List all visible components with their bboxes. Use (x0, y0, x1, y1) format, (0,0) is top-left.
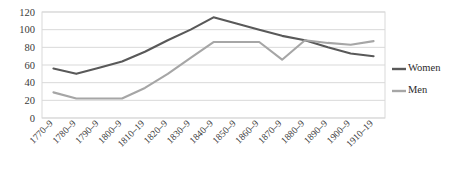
chart-canvas: 020406080100120 1770–91780–91790–91800–9… (0, 0, 455, 170)
x-tick-label: 1830–9 (165, 118, 192, 145)
legend-label-women: Women (408, 62, 441, 73)
x-tick-label: 1880–9 (279, 118, 306, 145)
x-tick-label: 1820–9 (142, 118, 169, 145)
chart-legend: WomenMen (392, 62, 441, 95)
y-tick-label: 60 (25, 60, 36, 71)
y-tick-label: 120 (19, 7, 35, 18)
legend-label-men: Men (408, 84, 428, 95)
y-tick-label: 80 (25, 42, 36, 53)
y-tick-label: 100 (19, 24, 35, 35)
y-tick-label: 20 (25, 95, 36, 106)
x-tick-label: 1860–9 (233, 118, 260, 145)
x-tick-label: 1840–9 (188, 118, 215, 145)
x-tick-label: 1850–9 (211, 118, 238, 145)
y-tick-label: 40 (25, 77, 36, 88)
y-tick-label: 0 (30, 113, 35, 124)
x-tick-label: 1790–9 (73, 118, 100, 145)
x-tick-label: 1780–9 (50, 118, 77, 145)
x-tick-label: 1870–9 (256, 118, 283, 145)
y-axis-tick-labels: 020406080100120 (19, 7, 35, 124)
x-axis-tick-labels: 1770–91780–91790–91800–91810–191820–9183… (28, 118, 376, 149)
line-chart: 020406080100120 1770–91780–91790–91800–9… (0, 0, 455, 170)
x-tick-label: 1890–9 (302, 118, 329, 145)
